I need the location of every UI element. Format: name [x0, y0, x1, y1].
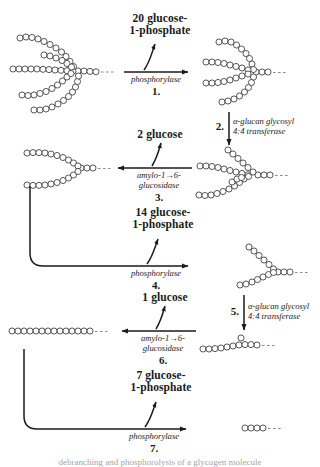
- enzyme-name: phosphorylase: [131, 268, 181, 278]
- enzyme-name: phosphorylase: [131, 74, 181, 84]
- step-number-7: 7.: [108, 443, 200, 455]
- arrow-step-6: [122, 306, 196, 331]
- structure-glycogen-after-step2: [196, 147, 290, 199]
- structure-glycogen-after-step1: [203, 38, 288, 105]
- structure-glycogen-after-step4: [237, 244, 310, 288]
- product-label-step-6: 1 glucose: [110, 291, 220, 303]
- product-line-1: 20 glucose-: [132, 12, 187, 24]
- enzyme-name-line-1: α-glucan glycosyl: [233, 116, 294, 126]
- structure-glycogen-after-step3: [24, 150, 113, 189]
- arrow-step-1: [124, 44, 188, 72]
- arrow-step-3: [118, 143, 192, 168]
- enzyme-label-step-7: phosphorylase: [108, 432, 200, 442]
- enzyme-label-step-3: amylo-1→6- glucosidase: [118, 171, 200, 190]
- enzyme-label-step-5: α-glucan glycosyl 4:4 transferase: [248, 302, 320, 322]
- enzyme-label-step-4: phosphorylase: [110, 269, 202, 279]
- enzyme-name: phosphorylase: [129, 431, 179, 441]
- step-number-5: 5.: [221, 306, 239, 318]
- step-number-3: 3.: [118, 192, 200, 204]
- product-label-step-4: 14 glucose- 1-phosphate: [108, 206, 218, 231]
- product-line-2: 1-phosphate: [106, 381, 216, 393]
- product-label-step-1: 20 glucose- 1-phosphate: [105, 12, 215, 37]
- enzyme-name-line-1: amylo-1→6-: [141, 333, 185, 343]
- product-line-1: 14 glucose-: [135, 206, 190, 218]
- structure-glycogen-after-step7: [242, 425, 283, 431]
- step-number-6: 6.: [122, 355, 204, 367]
- structure-glycogen-after-step5: [200, 335, 277, 352]
- enzyme-label-step-6: amylo-1→6- glucosidase: [122, 334, 204, 353]
- enzyme-name-line-1: amylo-1→6-: [137, 170, 181, 180]
- enzyme-name-line-2: glucosidase: [143, 343, 184, 353]
- product-line-1: 2 glucose: [137, 128, 182, 140]
- enzyme-name-line-2: 4:4 transferase: [233, 126, 285, 136]
- enzyme-label-step-1: phosphorylase: [115, 75, 197, 85]
- product-line-1: 1 glucose: [142, 291, 187, 303]
- enzyme-name-line-2: glucosidase: [139, 180, 180, 190]
- product-line-2: 1-phosphate: [108, 218, 218, 230]
- enzyme-label-step-2: α-glucan glycosyl 4:4 transferase: [233, 117, 320, 137]
- step-number-1: 1.: [115, 86, 197, 98]
- structure-glycogen-branched-start: [10, 34, 116, 113]
- product-line-2: 1-phosphate: [105, 24, 215, 36]
- structure-glycogen-after-step6: [9, 328, 110, 334]
- product-label-step-7: 7 glucose- 1-phosphate: [106, 369, 216, 394]
- product-line-1: 7 glucose-: [136, 369, 185, 381]
- product-label-step-3: 2 glucose: [105, 128, 215, 140]
- enzyme-name-line-1: α-glucan glycosyl: [248, 301, 309, 311]
- enzyme-name-line-2: 4:4 transferase: [248, 311, 300, 321]
- figure-caption: debranching and phosphorolysis of a glyc…: [0, 457, 320, 467]
